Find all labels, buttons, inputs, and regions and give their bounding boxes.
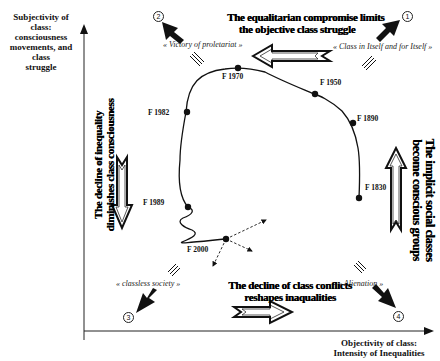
right-hollow-arrow — [386, 148, 406, 230]
corner-number-2: 2 — [153, 11, 164, 22]
y-axis-title-line: consciousness — [2, 32, 80, 42]
top-hollow-arrow — [253, 45, 330, 67]
label-f1890: F 1890 — [357, 114, 378, 123]
corner-number-1: 1 — [402, 11, 413, 22]
y-axis — [80, 24, 88, 340]
quote-classless-society: « classless society » — [116, 279, 180, 288]
trajectory-curve — [179, 68, 359, 243]
future-direction-arrows — [213, 220, 266, 266]
label-f2000: F 2000 — [187, 245, 208, 254]
caption-bottom-line: reshapes inaqualities — [210, 291, 370, 303]
label-f1830: F 1830 — [365, 183, 386, 192]
x-axis — [84, 327, 434, 335]
point-1830 — [356, 195, 362, 201]
caption-bottom: The decline of class conflicts reshapes … — [210, 279, 370, 303]
caption-right-line: The implicit social classes — [423, 120, 436, 280]
label-f1982: F 1982 — [148, 108, 169, 117]
caption-top: The equalitarian compromise limits the o… — [227, 11, 367, 35]
y-axis-title-line: movements, and class — [2, 42, 80, 62]
caption-top-line: The equalitarian compromise limits — [227, 11, 367, 23]
caption-right-line: become conscious groups — [410, 120, 423, 280]
corner-arrow-3 — [136, 264, 180, 313]
y-axis-title-line: struggle — [2, 62, 80, 72]
corner-number-3: 3 — [123, 312, 134, 323]
caption-bottom-line: The decline of class conflicts — [210, 279, 370, 291]
quote-victory-of-proletariat: « Victory of proletariat » — [163, 40, 243, 49]
point-1970 — [235, 65, 241, 71]
corner-number-4: 4 — [393, 311, 404, 322]
label-f1950: F 1950 — [320, 78, 341, 87]
bottom-hollow-arrow — [234, 301, 292, 323]
x-axis-title: Objectivity of class: Intensity of Inequ… — [318, 338, 440, 358]
caption-top-line: the objective class struggle — [227, 23, 367, 35]
point-1890 — [350, 120, 356, 126]
trajectory-points — [184, 65, 362, 242]
label-f1989: F 1989 — [143, 198, 164, 207]
caption-right: The implicit social classes become consc… — [410, 120, 436, 280]
y-axis-title-line: Subjectivity of class: — [2, 12, 80, 32]
caption-left: The decline of inequality diminishes cla… — [92, 95, 116, 235]
point-1982 — [184, 109, 190, 115]
point-1950 — [312, 91, 318, 97]
label-f1970: F 1970 — [222, 72, 243, 81]
x-axis-title-line: Intensity of Inequalities — [318, 348, 440, 358]
x-axis-title-line: Objectivity of class: — [318, 338, 440, 348]
point-1989 — [185, 204, 191, 210]
quote-class-in-itself: « Class in Itself and for Itself » — [333, 42, 432, 51]
caption-left-line: The decline of inequality — [92, 95, 104, 235]
y-axis-title: Subjectivity of class: consciousness mov… — [2, 12, 80, 72]
caption-left-line: diminishes class consciousness — [104, 95, 116, 235]
